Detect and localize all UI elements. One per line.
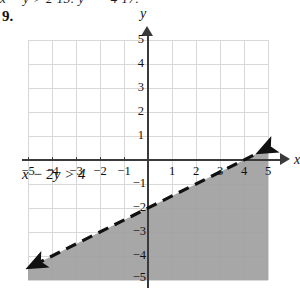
y-axis-label: y (140, 6, 146, 22)
ytick-label: −3 (126, 224, 146, 239)
ytick-label: 3 (128, 80, 144, 95)
ytick-label: 2 (128, 104, 144, 119)
ytick-label: −1 (126, 176, 146, 191)
xtick-label: 2 (187, 164, 205, 179)
tick-x--2 (100, 157, 101, 161)
ytick-label: −5 (126, 270, 146, 285)
ytick-label: 1 (128, 128, 144, 143)
ytick-label: 5 (128, 32, 144, 47)
problem-number: 9. (2, 8, 13, 25)
xtick-label: −2 (91, 164, 109, 179)
tick-x--4 (52, 157, 53, 161)
ytick-label: 4 (128, 56, 144, 71)
xtick-label: 4 (235, 164, 253, 179)
coordinate-graph: −5 −4 −3 −2 −1 1 2 3 4 5 5 4 3 2 1 −1 −2… (0, 24, 300, 291)
xtick-label: 1 (163, 164, 181, 179)
x-axis-arrow-icon (280, 153, 290, 165)
tick-x--5 (28, 157, 29, 161)
boundary-line-dashed (28, 40, 268, 280)
tick-x--3 (76, 157, 77, 161)
plot-area: −5 −4 −3 −2 −1 1 2 3 4 5 5 4 3 2 1 −1 −2… (28, 40, 268, 280)
tick-x--1 (124, 157, 125, 161)
xtick-label: 3 (211, 164, 229, 179)
inequality-annotation: x − 2y > 4 (22, 166, 86, 183)
ytick-label: −2 (126, 200, 146, 215)
ytick-label: −4 (126, 248, 146, 263)
xtick-label: 5 (259, 164, 277, 179)
x-axis-label: x (294, 152, 300, 168)
clipped-text-line: x − y > 2 13. y = −4 17. (0, 0, 300, 7)
